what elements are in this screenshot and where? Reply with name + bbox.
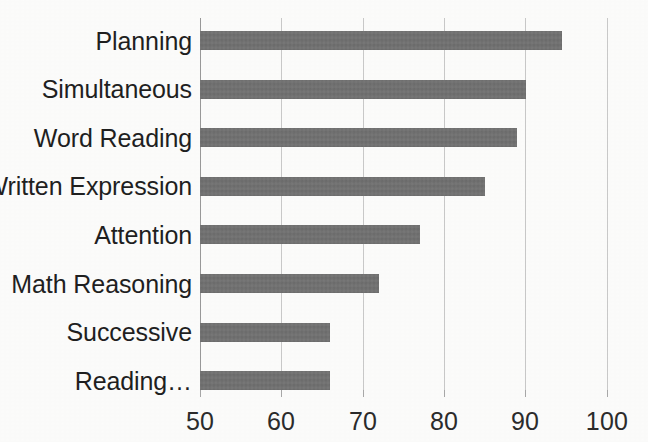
gridline-70 <box>363 18 364 390</box>
x-tick-label-50: 50 <box>165 406 235 436</box>
y-category-label-reading: Reading… <box>0 367 192 395</box>
y-category-label-word-reading: Word Reading <box>0 124 192 152</box>
tick-mark-90 <box>525 390 526 397</box>
x-tick-label-100: 100 <box>572 406 642 436</box>
bar-reading <box>200 371 330 390</box>
x-tick-label-60: 60 <box>246 406 316 436</box>
y-category-label-simultaneous: Simultaneous <box>0 75 192 103</box>
y-category-label-planning: Planning <box>0 27 192 55</box>
gridline-90 <box>525 18 526 390</box>
bar-successive <box>200 323 330 342</box>
tick-mark-80 <box>444 390 445 397</box>
x-tick-label-80: 80 <box>409 406 479 436</box>
x-tick-label-90: 90 <box>490 406 560 436</box>
bar-planning <box>200 31 562 50</box>
tick-mark-60 <box>281 390 282 397</box>
gridline-80 <box>444 18 445 390</box>
bar-math-reasoning <box>200 274 379 293</box>
bar-word-reading <box>200 128 517 147</box>
bar-attention <box>200 225 420 244</box>
bar-written-expression <box>200 177 485 196</box>
gridline-100 <box>607 18 608 390</box>
tick-mark-70 <box>363 390 364 397</box>
y-category-label-attention: Attention <box>0 221 192 249</box>
x-tick-label-70: 70 <box>328 406 398 436</box>
tick-mark-100 <box>607 390 608 397</box>
bar-chart: 50 60 70 80 90 100 Planning Simultaneous… <box>0 0 648 442</box>
plot-area: 50 60 70 80 90 100 <box>200 18 607 390</box>
y-category-label-successive: Successive <box>0 318 192 346</box>
tick-mark-50 <box>200 390 201 397</box>
y-category-label-written-expression: Written Expression <box>0 172 192 200</box>
y-category-label-math-reasoning: Math Reasoning <box>0 270 192 298</box>
bar-simultaneous <box>200 80 526 99</box>
